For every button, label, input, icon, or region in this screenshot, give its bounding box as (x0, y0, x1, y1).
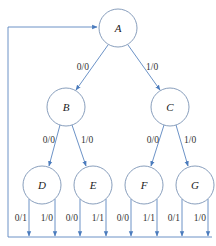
node-a: A (99, 9, 137, 47)
edge-e-out-0-label: 0/0 (66, 213, 78, 223)
node-b: B (47, 88, 85, 126)
edge-b-e (72, 125, 86, 166)
state-diagram: A B C D E F G 0/0 1/0 0/0 (0, 0, 216, 246)
node-c: C (151, 88, 189, 126)
edge-a-c-label: 1/0 (146, 62, 158, 72)
edge-c-g (176, 125, 188, 166)
edge-g-out-1-label: 1/0 (194, 213, 206, 223)
bus-return-to-a (8, 27, 97, 237)
edge-e-out-1-label: 1/1 (92, 213, 104, 223)
node-d-label: D (37, 179, 46, 191)
edge-b-d (49, 125, 60, 166)
node-a-label: A (114, 22, 122, 34)
leaf-edge-labels: 0/1 1/0 0/0 1/1 0/0 1/1 0/1 1/0 (15, 213, 206, 223)
node-f: F (125, 166, 163, 204)
node-f-label: F (140, 179, 148, 191)
edge-d-out-0-label: 0/1 (15, 213, 27, 223)
diagram-canvas: A B C D E F G 0/0 1/0 0/0 (0, 0, 216, 246)
edge-f-out-1-label: 1/1 (143, 213, 155, 223)
node-e: E (74, 166, 112, 204)
edge-f-out-0-label: 0/0 (117, 213, 129, 223)
node-b-label: B (63, 101, 70, 113)
edge-d-out-1-label: 1/0 (41, 213, 53, 223)
node-d: D (23, 166, 61, 204)
edge-a-b-label: 0/0 (77, 62, 89, 72)
edge-c-g-label: 1/0 (184, 135, 196, 145)
edge-c-f-label: 0/0 (147, 135, 159, 145)
node-c-label: C (166, 101, 174, 113)
feedback-bus (8, 27, 212, 237)
node-g-label: G (191, 179, 199, 191)
node-e-label: E (89, 179, 97, 191)
node-g: G (176, 166, 214, 204)
edge-g-out-0-label: 0/1 (168, 213, 180, 223)
edge-b-e-label: 1/0 (81, 135, 93, 145)
edge-b-d-label: 0/0 (43, 135, 55, 145)
edge-c-f (151, 125, 164, 166)
